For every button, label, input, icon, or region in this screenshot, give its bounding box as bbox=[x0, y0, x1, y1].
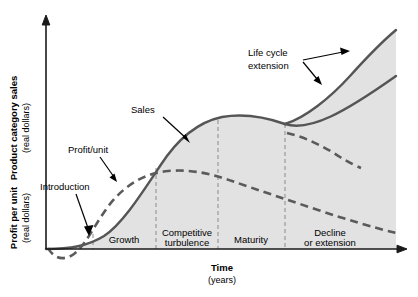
callout-sales: Sales bbox=[131, 104, 190, 143]
callout-extension-leader-lower bbox=[303, 62, 317, 79]
stage-label-competitive-turbulence-line2: turbulence bbox=[165, 237, 209, 248]
callout-profit-per-unit: Profit/unit bbox=[68, 144, 117, 182]
stage-label-growth: Growth bbox=[109, 234, 140, 245]
callout-introduction-arrowhead bbox=[84, 225, 94, 236]
callout-extension-label-line2: extension bbox=[248, 60, 289, 71]
callout-sales-leader bbox=[163, 117, 187, 139]
callout-profit-label: Profit/unit bbox=[68, 144, 108, 155]
stage-label-decline-line2: or extension bbox=[304, 237, 356, 248]
callout-profit-arrowhead bbox=[110, 174, 118, 183]
callout-introduction-leader bbox=[76, 194, 88, 228]
x-axis-subtitle: (years) bbox=[208, 275, 236, 285]
callout-extension-arrowhead-lower bbox=[314, 76, 323, 85]
y-axis-top-subtitle: (real dollars) bbox=[21, 103, 31, 153]
y-axis-bottom-title: Profit per unit bbox=[8, 186, 19, 249]
x-axis-title: Time bbox=[211, 262, 233, 273]
y-axis-arrowhead bbox=[42, 15, 50, 25]
y-axis-bottom-subtitle: (real dollars) bbox=[21, 193, 31, 243]
callout-introduction: Introduction bbox=[40, 181, 94, 236]
callout-sales-label: Sales bbox=[131, 104, 155, 115]
callout-profit-leader bbox=[100, 157, 114, 177]
x-axis-label: Time (years) bbox=[208, 262, 236, 285]
callout-extension-arrowhead-upper bbox=[340, 48, 350, 56]
x-axis-arrowhead bbox=[397, 245, 407, 253]
y-axis-top-label: Product category sales (real dollars) bbox=[8, 76, 31, 181]
callout-life-cycle-extension: Life cycle extension bbox=[248, 47, 350, 85]
y-axis-top-title: Product category sales bbox=[8, 76, 19, 181]
callout-extension-label-line1: Life cycle bbox=[248, 47, 288, 58]
stage-label-maturity: Maturity bbox=[234, 234, 268, 245]
y-axis-bottom-label: Profit per unit (real dollars) bbox=[8, 186, 31, 249]
product-life-cycle-diagram: Product category sales (real dollars) Pr… bbox=[0, 0, 418, 297]
sales-area-fill bbox=[46, 30, 396, 249]
callout-extension-leader-upper bbox=[303, 52, 343, 60]
callout-introduction-label: Introduction bbox=[40, 181, 90, 192]
